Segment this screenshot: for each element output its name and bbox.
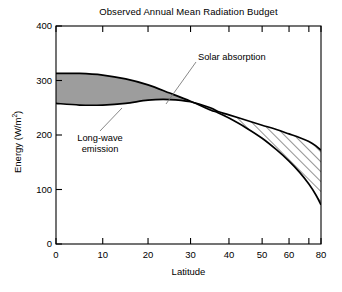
x-axis-title: Latitude xyxy=(56,266,321,277)
long-wave-emission-annotation: Long-wave emission xyxy=(58,133,142,154)
y-axis-title-tail: ) xyxy=(12,111,23,114)
x-tick-label-10: 10 xyxy=(87,249,119,260)
y-tick-label-100: 100 xyxy=(14,184,52,195)
long-wave-emission-leader-line xyxy=(100,108,122,131)
x-tick-label-30: 30 xyxy=(175,249,207,260)
x-tick-label-40: 40 xyxy=(213,249,245,260)
y-tick-label-0: 0 xyxy=(14,238,52,249)
y-axis-title: Energy (W/m2) xyxy=(12,111,23,173)
y-tick-label-300: 300 xyxy=(14,75,52,86)
radiation-budget-figure: Observed Annual Mean Radiation Budget xyxy=(0,0,342,292)
y-tick-label-400: 400 xyxy=(14,20,52,31)
x-tick-label-80: 80 xyxy=(305,249,337,260)
y-axis-title-superscript: 2 xyxy=(11,114,18,118)
x-tick-label-60: 60 xyxy=(273,249,305,260)
region-solar-surplus xyxy=(56,73,218,112)
long-wave-emission-annotation-line2: emission xyxy=(58,144,142,155)
long-wave-emission-annotation-line1: Long-wave xyxy=(58,133,142,144)
x-tick-label-20: 20 xyxy=(132,249,164,260)
x-tick-label-0: 0 xyxy=(40,249,72,260)
region-longwave-deficit xyxy=(218,112,321,205)
y-tick-label-200: 200 xyxy=(14,129,52,140)
y-axis-title-text: Energy (W/m xyxy=(12,118,23,173)
x-axis-ticks-bottom xyxy=(56,238,321,244)
x-axis-ticks-top xyxy=(56,26,321,32)
solar-absorption-annotation: Solar absorption xyxy=(198,52,266,63)
